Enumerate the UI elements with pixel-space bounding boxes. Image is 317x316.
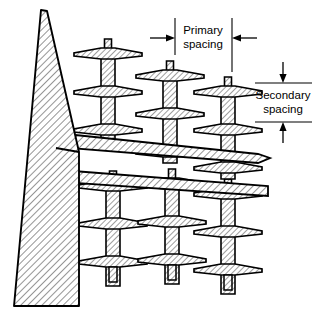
primary-spacing-label-line2: spacing [183, 38, 223, 50]
diagram-root: Primary spacing Secondary spacing [0, 0, 317, 316]
primary-spacing-label-line1: Primary [183, 24, 223, 36]
insulator-spacing-diagram: Primary spacing Secondary spacing [0, 0, 317, 316]
secondary-spacing-label-line1: Secondary [256, 89, 311, 101]
secondary-spacing-label-line2: spacing [263, 103, 303, 115]
